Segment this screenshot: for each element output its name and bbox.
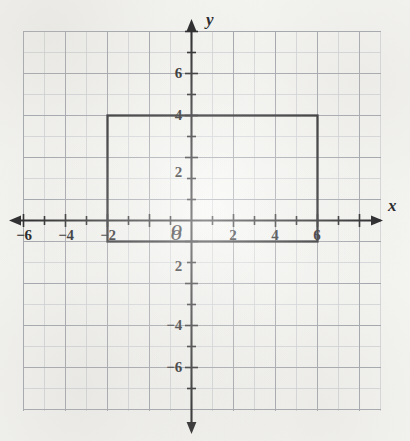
- coordinate-plane: [0, 0, 410, 441]
- y-tick-label-6: 6: [158, 65, 182, 82]
- y-tick-label-4: 4: [158, 107, 182, 124]
- x-tick-label-2: 2: [221, 227, 245, 244]
- x-axis-label: x: [388, 196, 397, 216]
- y-tick-label-2: 2: [158, 164, 182, 181]
- x-tick-label-neg6: −6: [8, 227, 40, 244]
- y-tick-label-neg4: −4: [150, 317, 182, 334]
- x-axis-arrow-right: [371, 216, 383, 226]
- y-axis-label: y: [206, 10, 214, 30]
- x-tick-label-6: 6: [305, 227, 329, 244]
- x-tick-label-4: 4: [263, 227, 287, 244]
- x-axis-arrow-left: [9, 216, 21, 226]
- x-tick-label-neg4: −4: [50, 227, 82, 244]
- graph-page: −6 −4 −2 O 2 4 6 6 4 2 O 2 −4 −6 x y: [0, 0, 410, 441]
- y-tick-label-neg2: 2: [158, 258, 182, 275]
- y-axis-arrow-down: [187, 422, 197, 434]
- y-tick-label-neg6: −6: [150, 359, 182, 376]
- y-tick-label-origin: O: [158, 222, 182, 239]
- y-axis-arrow-up: [187, 19, 197, 31]
- x-tick-label-neg2: −2: [92, 227, 124, 244]
